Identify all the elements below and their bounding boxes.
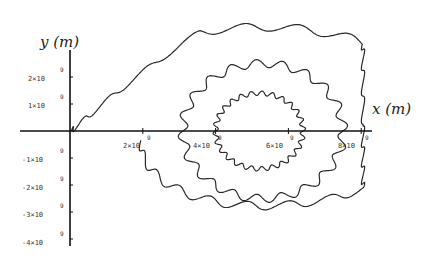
svg-text:-4×10: -4×10 xyxy=(22,239,43,247)
svg-text:9: 9 xyxy=(60,202,64,209)
svg-text:9: 9 xyxy=(60,66,64,73)
svg-text:1×10: 1×10 xyxy=(28,102,45,110)
svg-text:2×10: 2×10 xyxy=(28,75,45,83)
svg-text:9: 9 xyxy=(60,175,64,182)
svg-text:9: 9 xyxy=(60,147,64,154)
axis-ticks xyxy=(70,77,361,239)
x-tick-labels: 2×10 9 4×10 9 6×10 9 8×10 9 xyxy=(123,134,369,150)
svg-text:9: 9 xyxy=(60,230,64,237)
svg-text:-3×10: -3×10 xyxy=(22,211,43,219)
orbit-plot: y (m) x (m) 2×10 9 4×10 9 6×10 9 8×10 9 … xyxy=(0,0,429,268)
svg-text:4×10: 4×10 xyxy=(193,142,210,150)
svg-text:9: 9 xyxy=(60,93,64,100)
x-axis-title: x (m) xyxy=(372,100,411,118)
svg-text:8×10: 8×10 xyxy=(338,142,355,150)
svg-text:9: 9 xyxy=(147,134,151,141)
y-axis-title: y (m) xyxy=(39,33,79,51)
svg-text:9: 9 xyxy=(365,134,369,141)
orbit-curves xyxy=(71,24,364,210)
svg-text:-2×10: -2×10 xyxy=(22,184,43,192)
y-tick-labels: 2×10 9 1×10 9 -1×10 9 -2×10 9 -3×10 9 -4… xyxy=(22,66,64,247)
svg-text:9: 9 xyxy=(290,134,294,141)
svg-text:-1×10: -1×10 xyxy=(22,156,43,164)
svg-text:9: 9 xyxy=(218,134,222,141)
svg-text:6×10: 6×10 xyxy=(266,142,283,150)
svg-text:2×10: 2×10 xyxy=(123,142,140,150)
